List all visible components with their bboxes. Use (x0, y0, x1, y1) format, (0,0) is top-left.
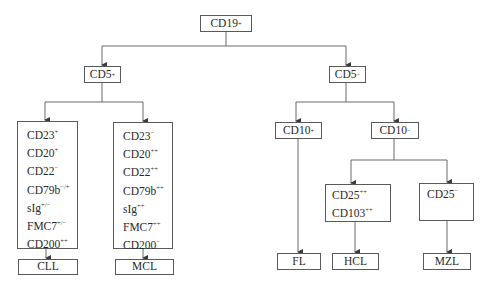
marker-row: CD200− (123, 236, 172, 254)
node-label: CD5 (335, 69, 357, 81)
panel-cll-markers: CD23+ CD20+ CD22− CD79b−/+ sIg+/− FMC7+/… (17, 121, 78, 249)
node-label: CD10 (283, 125, 310, 137)
node-label: CD5 (90, 69, 112, 81)
marker-row: CD22++ (123, 163, 172, 181)
marker-row: sIg+/− (27, 199, 77, 217)
marker-row: sIg++ (123, 200, 172, 218)
marker-row: CD20+ (27, 144, 77, 162)
outcome-fl: FL (277, 253, 321, 270)
marker-row: CD200++ (27, 235, 77, 253)
node-cd10-negative: CD10− (371, 122, 419, 139)
marker-row: FMC7+/− (27, 217, 77, 235)
panel-hcl-markers: CD25++ CD103++ (325, 184, 391, 222)
node-cd19-positive: CD19+ (200, 15, 252, 32)
panel-mcl-markers: CD23− CD20++ CD22++ CD79b++ sIg++ FMC7++… (113, 122, 173, 249)
node-cd5-negative: CD5− (329, 66, 366, 83)
marker-row: CD79b++ (123, 182, 172, 200)
outcome-cll: CLL (18, 259, 78, 275)
marker-row: CD23+ (27, 126, 77, 144)
marker-row: CD20++ (123, 145, 172, 163)
marker-row: CD103++ (332, 204, 390, 222)
outcome-hcl: HCL (332, 253, 379, 270)
node-cd10-positive: CD10+ (275, 122, 322, 139)
panel-mzl-markers: CD25− (419, 183, 474, 221)
marker-row: CD25− (427, 185, 473, 203)
marker-row: CD23− (123, 127, 172, 145)
marker-row: FMC7++ (123, 218, 172, 236)
marker-row: CD79b−/+ (27, 181, 77, 199)
node-label: CD19 (210, 18, 237, 30)
node-cd5-positive: CD5+ (84, 66, 121, 83)
outcome-mzl: MZL (423, 253, 471, 270)
outcome-mcl: MCL (115, 259, 174, 275)
node-label: CD10 (379, 125, 406, 137)
marker-row: CD22− (27, 162, 77, 180)
marker-row: CD25++ (332, 186, 390, 204)
